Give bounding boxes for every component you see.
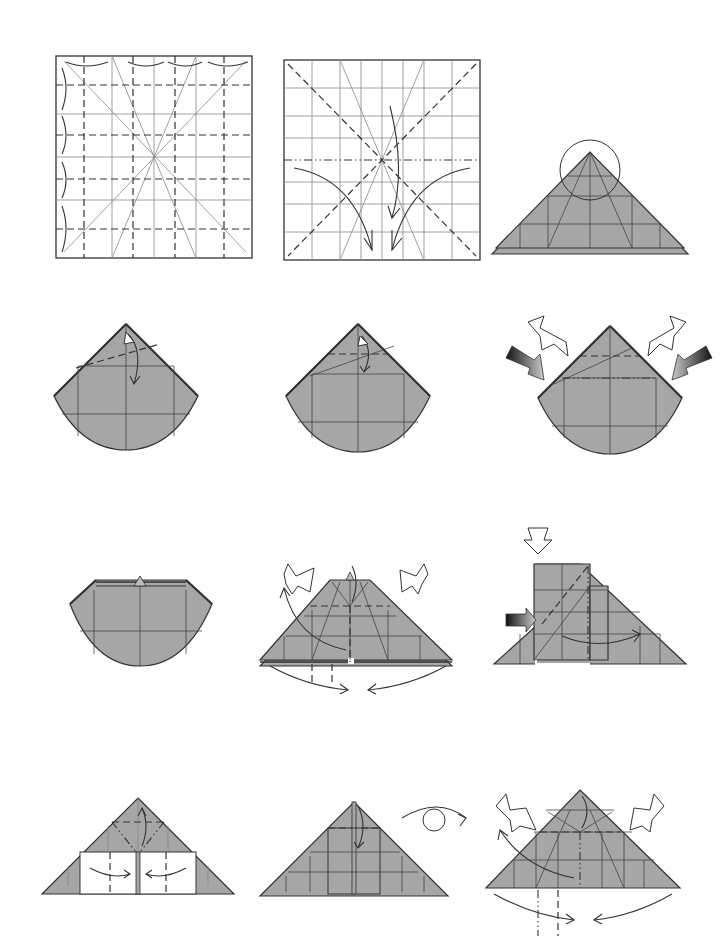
step-14-diagram [500, 314, 720, 464]
step-11-diagram [490, 130, 690, 260]
step-12-diagram [52, 322, 200, 452]
step-15-diagram [68, 576, 214, 668]
step-10-diagram [284, 60, 480, 260]
step-17-diagram [490, 526, 690, 668]
step-18-diagram [38, 796, 238, 902]
step-9-diagram [56, 56, 252, 260]
step-13-diagram [284, 322, 432, 452]
step-16-diagram [256, 562, 456, 692]
step-19-diagram [258, 796, 472, 906]
step-20-diagram [484, 788, 684, 938]
